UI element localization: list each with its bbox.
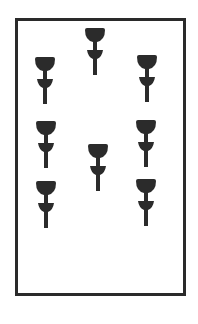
cup-icon <box>135 179 157 227</box>
cup-icon <box>34 57 56 105</box>
cup-icon <box>84 28 106 76</box>
cup-icon <box>136 55 158 103</box>
cup-icon <box>35 121 57 169</box>
cup-icon <box>135 120 157 168</box>
cup-icon <box>35 181 57 229</box>
cup-icon <box>87 144 109 192</box>
